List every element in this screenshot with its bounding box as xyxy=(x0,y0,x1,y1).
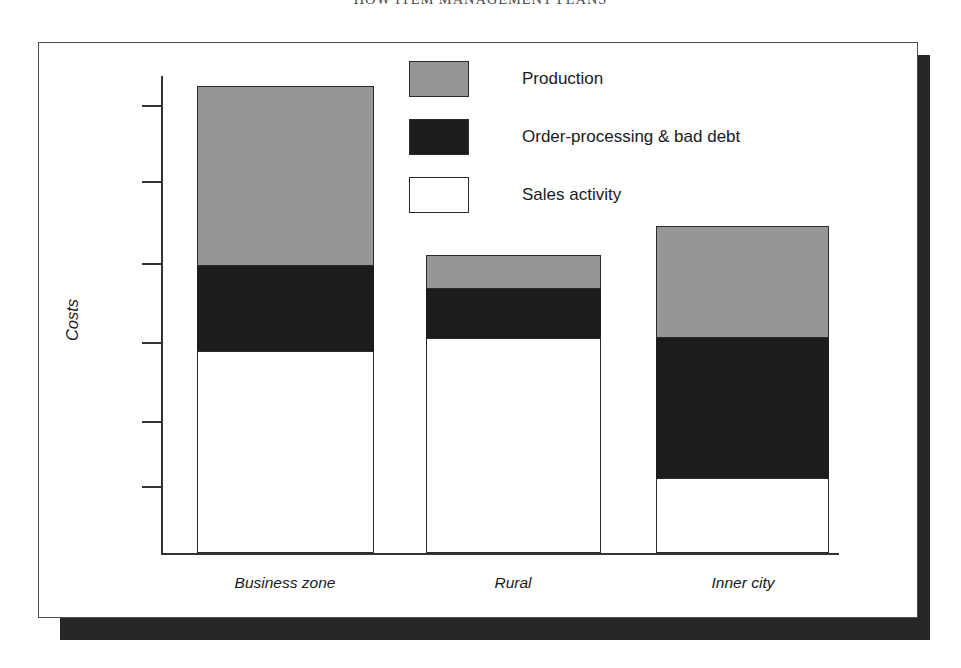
running-head: HOW ITEM MANAGEMENT PLANS xyxy=(0,0,961,4)
bar-segment-order-processing xyxy=(197,266,374,351)
bar-group-business-zone xyxy=(197,86,374,553)
y-axis-tick xyxy=(142,181,161,183)
bar-segment-order-processing xyxy=(656,338,829,478)
legend-label-sales-activity: Sales activity xyxy=(522,185,621,205)
legend-item-order-processing: Order-processing & bad debt xyxy=(409,119,740,155)
production-swatch xyxy=(409,61,469,97)
stacked-bar-chart: Costs Business zone Rural Inner city xyxy=(39,43,917,617)
y-axis-tick xyxy=(142,263,161,265)
bar-segment-order-processing xyxy=(426,289,601,338)
y-axis-line xyxy=(161,76,163,553)
bar-group-rural xyxy=(426,255,601,553)
x-axis-label-inner-city: Inner city xyxy=(712,574,775,592)
bar-segment-sales-activity xyxy=(426,338,601,553)
x-axis-line xyxy=(161,553,839,555)
y-axis-tick xyxy=(142,486,161,488)
legend-label-order-processing: Order-processing & bad debt xyxy=(522,127,740,147)
figure-frame: Costs Business zone Rural Inner city xyxy=(38,42,918,618)
y-axis-tick xyxy=(142,342,161,344)
bar-segment-production xyxy=(656,226,829,338)
x-axis-label-rural: Rural xyxy=(494,574,531,592)
order-processing-swatch xyxy=(409,119,469,155)
legend-label-production: Production xyxy=(522,69,603,89)
bar-group-inner-city xyxy=(656,226,829,553)
bar-segment-production xyxy=(197,86,374,266)
y-axis-tick xyxy=(142,421,161,423)
bar-segment-production xyxy=(426,255,601,289)
sales-activity-swatch xyxy=(409,177,469,213)
legend-item-sales-activity: Sales activity xyxy=(409,177,621,213)
y-axis-tick xyxy=(142,105,161,107)
legend-item-production: Production xyxy=(409,61,603,97)
bar-segment-sales-activity xyxy=(197,351,374,553)
x-axis-label-business-zone: Business zone xyxy=(235,574,336,592)
bar-segment-sales-activity xyxy=(656,478,829,553)
y-axis-title: Costs xyxy=(63,299,82,341)
